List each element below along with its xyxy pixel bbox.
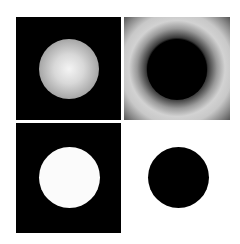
- black-disc: [148, 147, 209, 208]
- panel-shaded-sphere: [16, 17, 121, 120]
- white-disc: [39, 147, 100, 208]
- black-center-disc: [147, 40, 207, 100]
- panel-white-disc: [16, 123, 121, 233]
- panel-ring-halo: [124, 17, 230, 120]
- panel-black-disc: [124, 123, 230, 233]
- shaded-sphere: [39, 39, 99, 99]
